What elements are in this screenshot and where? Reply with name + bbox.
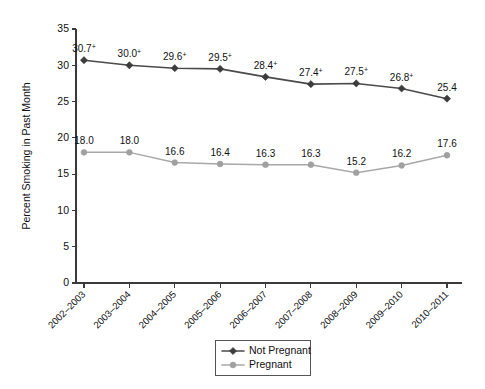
data-point-label: 30.7+ bbox=[72, 43, 96, 55]
data-point-marker bbox=[443, 95, 450, 102]
chart-figure: 05101520253035Percent Smoking in Past Mo… bbox=[0, 0, 485, 389]
y-tick-label: 0 bbox=[63, 276, 69, 288]
data-point-label: 16.3 bbox=[256, 148, 276, 159]
data-point-label: 16.6 bbox=[165, 146, 185, 157]
data-point-label: 15.2 bbox=[347, 156, 367, 167]
series-not-pregnant: 30.7+30.0+29.6+29.5+28.4+27.4+27.5+26.8+… bbox=[72, 43, 457, 103]
x-tick-label: 2008–2009 bbox=[318, 289, 360, 331]
x-tick-label: 2005–2006 bbox=[182, 289, 224, 331]
x-tick-label: 2006–2007 bbox=[227, 289, 269, 331]
x-tick-label: 2010–2011 bbox=[409, 289, 450, 330]
y-tick-label: 35 bbox=[57, 22, 69, 34]
data-point-marker bbox=[398, 85, 405, 92]
data-point-marker bbox=[399, 163, 405, 169]
series-pregnant: 18.018.016.616.416.316.315.216.217.6 bbox=[74, 135, 457, 175]
data-point-marker bbox=[444, 152, 450, 158]
data-point-label: 18.0 bbox=[74, 135, 94, 146]
x-tick-label: 2003–2004 bbox=[91, 288, 133, 330]
y-tick-label: 20 bbox=[57, 131, 69, 143]
data-point-label: 29.5+ bbox=[208, 51, 232, 63]
line-chart-svg: 05101520253035Percent Smoking in Past Mo… bbox=[0, 0, 485, 389]
x-tick-label: 2007–2008 bbox=[273, 289, 315, 331]
y-tick-label: 25 bbox=[57, 95, 69, 107]
data-point-marker bbox=[353, 170, 359, 176]
data-point-marker bbox=[217, 65, 224, 72]
data-point-marker bbox=[263, 162, 269, 168]
data-point-label: 17.6 bbox=[437, 138, 457, 149]
data-point-marker bbox=[230, 362, 236, 368]
data-point-marker bbox=[353, 80, 360, 87]
data-point-marker bbox=[126, 62, 133, 69]
y-tick-label: 15 bbox=[57, 167, 69, 179]
data-point-label: 26.8+ bbox=[390, 71, 414, 83]
x-tick-label: 2004–2005 bbox=[136, 289, 178, 331]
y-tick-label: 30 bbox=[57, 59, 69, 71]
data-point-label: 25.4 bbox=[437, 82, 457, 93]
data-point-marker bbox=[308, 162, 314, 168]
data-point-label: 16.4 bbox=[210, 147, 230, 158]
data-point-label: 16.2 bbox=[392, 148, 412, 159]
data-point-marker bbox=[80, 57, 87, 64]
data-point-label: 27.5+ bbox=[344, 66, 368, 78]
y-axis-title: Percent Smoking in Past Month bbox=[20, 82, 32, 229]
data-point-label: 27.4+ bbox=[299, 67, 323, 79]
data-point-marker bbox=[171, 65, 178, 72]
data-point-label: 29.6+ bbox=[163, 51, 187, 63]
data-point-marker bbox=[262, 73, 269, 80]
x-tick-label: 2009–2010 bbox=[363, 289, 405, 331]
data-point-marker bbox=[81, 149, 87, 155]
data-point-label: 18.0 bbox=[120, 135, 140, 146]
data-point-label: 30.0+ bbox=[118, 48, 142, 60]
y-axis: 05101520253035 bbox=[57, 22, 76, 288]
data-point-marker bbox=[307, 81, 314, 88]
data-point-marker bbox=[172, 160, 178, 166]
x-axis: 2002–20032003–20042004–20052005–20062006… bbox=[46, 283, 462, 330]
data-point-marker bbox=[126, 149, 132, 155]
data-point-label: 28.4+ bbox=[254, 59, 278, 71]
y-tick-label: 5 bbox=[63, 240, 69, 252]
data-point-label: 16.3 bbox=[301, 148, 321, 159]
legend-label: Pregnant bbox=[249, 358, 292, 370]
data-point-marker bbox=[217, 161, 223, 167]
x-tick-label: 2002–2003 bbox=[46, 289, 88, 331]
legend-label: Not Pregnant bbox=[249, 344, 311, 356]
y-tick-label: 10 bbox=[57, 204, 69, 216]
chart-legend: Not PregnantPregnant bbox=[215, 340, 311, 375]
